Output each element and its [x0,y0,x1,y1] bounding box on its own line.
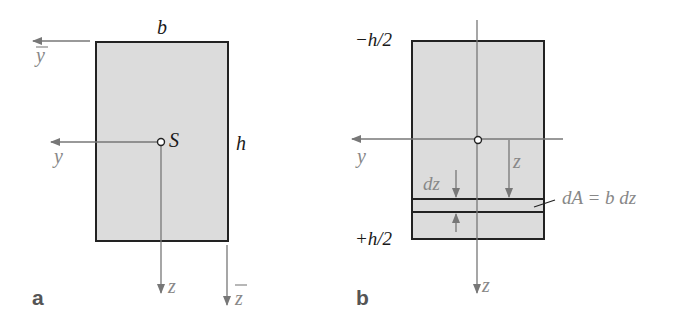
bottom-bound-label: +h/2 [355,228,393,249]
y-axis-label: y [355,145,366,168]
figure: b h S y y z z a −h/2 +h/2 y z dz dA = b … [0,0,684,326]
diagram-canvas: b h S y y z z a −h/2 +h/2 y z dz dA = b … [0,0,684,326]
subfigure-label-b: b [356,286,369,309]
panel-b: −h/2 +h/2 y z dz dA = b dz z b [352,20,637,309]
height-label: h [236,132,246,154]
centroid-label: S [169,129,179,151]
y-axis-label: y [52,145,63,168]
width-label: b [157,16,167,38]
centroid-marker [158,139,165,146]
panel-a: b h S y y z z a [32,16,247,309]
z-axis-label: z [167,275,176,297]
zbar-axis-label: z [234,287,243,309]
subfigure-label-a: a [32,286,44,309]
top-bound-label: −h/2 [355,29,393,50]
dA-formula-label: dA = b dz [562,187,637,208]
z-dimension-label: z [512,150,521,172]
z-axis-label: z [481,274,490,296]
dz-label: dz [423,173,441,194]
centroid-marker [475,137,482,144]
